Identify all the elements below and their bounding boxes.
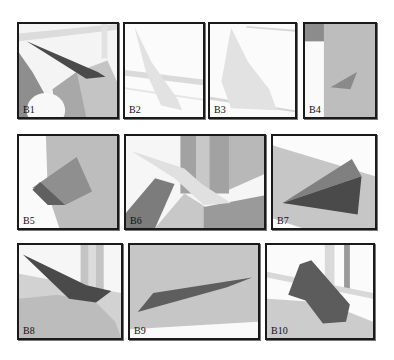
panel-label: B2 bbox=[129, 105, 141, 115]
render-b6-image bbox=[126, 136, 264, 228]
panel-b6: B6 bbox=[124, 134, 266, 230]
panel-label: B5 bbox=[23, 216, 35, 226]
panel-label: B3 bbox=[214, 105, 226, 115]
panel-b5: B5 bbox=[17, 134, 119, 230]
panel-b3: B3 bbox=[208, 22, 297, 119]
panel-label: B9 bbox=[134, 326, 146, 336]
panel-label: B10 bbox=[271, 326, 288, 336]
panel-b7: B7 bbox=[271, 134, 377, 230]
render-b9-image bbox=[130, 245, 258, 338]
panel-b9: B9 bbox=[128, 243, 260, 340]
panel-label: B1 bbox=[23, 105, 35, 115]
panel-label: B6 bbox=[130, 216, 142, 226]
panel-b4: B4 bbox=[303, 22, 377, 119]
panel-b2: B2 bbox=[123, 22, 205, 119]
panel-b8: B8 bbox=[17, 243, 123, 340]
panel-label: B7 bbox=[277, 216, 289, 226]
panel-b1: B1 bbox=[17, 22, 119, 119]
panel-label: B4 bbox=[309, 105, 321, 115]
panel-label: B8 bbox=[23, 326, 35, 336]
panel-b10: B10 bbox=[265, 243, 375, 340]
